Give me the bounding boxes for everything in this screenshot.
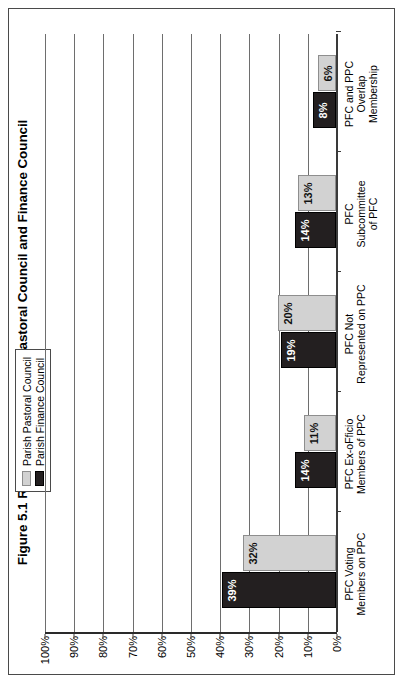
figure-page: Figure 5.1 Relationship between Pastoral… bbox=[0, 0, 403, 683]
bar-group: 14%13% bbox=[45, 152, 336, 272]
y-tick-mark-70 bbox=[132, 634, 133, 639]
bar-value-label-pastoral: 20% bbox=[282, 297, 294, 331]
y-tick-mark-60 bbox=[161, 634, 162, 639]
legend-item-pastoral: Parish Pastoral Council bbox=[20, 357, 33, 486]
bar-group: 39%32% bbox=[45, 512, 336, 632]
bar-value-label-pastoral: 6% bbox=[322, 57, 334, 91]
category-label: PFC NotRepresented on PPC bbox=[343, 274, 367, 394]
bar-finance: 14% bbox=[295, 213, 336, 249]
gridline-0 bbox=[337, 34, 338, 632]
bar-group: 8%6% bbox=[45, 32, 336, 152]
bar-value-label-pastoral: 13% bbox=[302, 177, 314, 211]
bar-pastoral: 20% bbox=[278, 296, 336, 332]
bar-group: 14%11% bbox=[45, 392, 336, 512]
category-label: PFCSubcommitteeof PFC bbox=[343, 154, 379, 274]
y-tick-mark-10 bbox=[307, 634, 308, 639]
bar-value-label-pastoral: 32% bbox=[247, 537, 259, 571]
legend-label-pastoral: Parish Pastoral Council bbox=[21, 357, 33, 466]
y-tick-label-0: 0% bbox=[331, 636, 343, 676]
bar-value-label-finance: 8% bbox=[317, 94, 329, 128]
legend-swatch-pastoral bbox=[22, 471, 31, 486]
bar-value-label-finance: 14% bbox=[299, 214, 311, 248]
chart-title: Figure 5.1 Relationship between Pastoral… bbox=[15, 9, 30, 676]
y-tick-label-70: 70% bbox=[127, 636, 139, 676]
y-tick-label-90: 90% bbox=[68, 636, 80, 676]
category-tick bbox=[336, 271, 341, 272]
figure-border: Figure 5.1 Relationship between Pastoral… bbox=[8, 8, 395, 675]
category-label: PFC and PPCOverlapMembership bbox=[343, 34, 379, 154]
y-tick-label-50: 50% bbox=[185, 636, 197, 676]
rotated-chart-wrapper: Figure 5.1 Relationship between Pastoral… bbox=[9, 9, 396, 676]
plot-area: 39%32%14%11%19%20%14%13%8%6% bbox=[45, 34, 337, 634]
y-tick-mark-20 bbox=[278, 634, 279, 639]
y-tick-mark-80 bbox=[103, 634, 104, 639]
bar-value-label-finance: 14% bbox=[299, 454, 311, 488]
bar-pastoral: 13% bbox=[298, 176, 336, 212]
bar-value-label-pastoral: 11% bbox=[308, 417, 320, 451]
bar-pastoral: 11% bbox=[304, 416, 336, 452]
category-tick bbox=[336, 511, 341, 512]
bar-finance: 14% bbox=[295, 453, 336, 489]
y-tick-mark-30 bbox=[249, 634, 250, 639]
bar-pastoral: 6% bbox=[318, 56, 336, 92]
legend-swatch-finance bbox=[35, 471, 44, 486]
y-tick-label-10: 10% bbox=[302, 636, 314, 676]
y-tick-mark-100 bbox=[45, 634, 46, 639]
bar-group: 19%20% bbox=[45, 272, 336, 392]
chart-canvas: Figure 5.1 Relationship between Pastoral… bbox=[9, 9, 396, 676]
bar-pastoral: 32% bbox=[243, 536, 336, 572]
y-tick-mark-40 bbox=[220, 634, 221, 639]
y-tick-label-100: 100% bbox=[39, 636, 51, 676]
bar-value-label-finance: 19% bbox=[285, 334, 297, 368]
bar-finance: 8% bbox=[313, 93, 336, 129]
category-tick bbox=[336, 31, 341, 32]
y-tick-label-20: 20% bbox=[273, 636, 285, 676]
y-tick-label-30: 30% bbox=[243, 636, 255, 676]
category-label: PFC VotingMembers on PPC bbox=[343, 514, 367, 634]
category-tick bbox=[336, 391, 341, 392]
y-tick-label-40: 40% bbox=[214, 636, 226, 676]
y-tick-mark-90 bbox=[74, 634, 75, 639]
bar-value-label-finance: 39% bbox=[226, 574, 238, 608]
y-tick-mark-50 bbox=[191, 634, 192, 639]
y-tick-mark-0 bbox=[337, 634, 338, 639]
y-tick-label-80: 80% bbox=[97, 636, 109, 676]
bar-finance: 19% bbox=[281, 333, 336, 369]
legend-label-finance: Parish Finance Council bbox=[34, 358, 46, 466]
category-tick bbox=[336, 151, 341, 152]
bar-finance: 39% bbox=[222, 573, 336, 609]
y-tick-label-60: 60% bbox=[156, 636, 168, 676]
category-label: PFC Ex-oFficioMembers of PPC bbox=[343, 394, 367, 514]
